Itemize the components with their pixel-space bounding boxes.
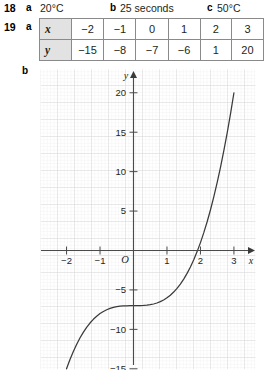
cubic-graph-svg: −2−1123 2015105−5−10−15 x y O <box>40 68 256 370</box>
answer-row-19: 19 a x −2 −1 0 1 2 3 y −15 −8 −7 −6 1 20 <box>0 18 264 62</box>
answer-19-part-b-letter: b <box>22 65 28 76</box>
x-tick-label: 2 <box>198 255 203 266</box>
table-cell: 1 <box>200 40 231 61</box>
answer-18-part-b-value: 25 seconds <box>120 2 174 14</box>
table-cell: −6 <box>168 40 200 61</box>
question-number-18: 18 <box>4 2 16 14</box>
x-axis-label: x <box>248 255 254 266</box>
y-tick-label: 15 <box>115 127 126 138</box>
table-cell: −2 <box>71 19 104 40</box>
table-cell: 1 <box>168 19 200 40</box>
y-tick-label: 5 <box>121 205 126 216</box>
x-tick-label: 1 <box>164 255 169 266</box>
table-row-header-x: x <box>40 19 72 40</box>
table-cell: 20 <box>231 40 263 61</box>
table-row-header-y: y <box>40 40 72 61</box>
table-row: x −2 −1 0 1 2 3 <box>40 19 264 40</box>
x-tick-label: −1 <box>95 255 106 266</box>
value-table: x −2 −1 0 1 2 3 y −15 −8 −7 −6 1 20 <box>39 18 264 61</box>
answer-19-part-a-letter: a <box>26 21 32 32</box>
answer-18-part-c-value: 50°C <box>217 2 240 14</box>
table-cell: 3 <box>231 19 263 40</box>
table-row: y −15 −8 −7 −6 1 20 <box>40 40 264 61</box>
y-tick-label: 20 <box>115 87 126 98</box>
cubic-graph-figure: −2−1123 2015105−5−10−15 x y O <box>40 68 256 370</box>
x-tick-label: −2 <box>61 255 72 266</box>
answer-19-part-b-graph-block: b <box>0 62 264 375</box>
answer-18-part-c-letter: c <box>207 2 213 13</box>
table-cell: −15 <box>71 40 104 61</box>
table-cell: −1 <box>104 19 136 40</box>
origin-label: O <box>121 254 129 265</box>
table-cell: −7 <box>136 40 168 61</box>
y-tick-label: −5 <box>115 284 126 295</box>
answer-row-18: 18 a 20°C b 25 seconds c 50°C <box>0 0 264 18</box>
y-tick-label: 10 <box>115 166 126 177</box>
y-axis-label: y <box>123 70 129 81</box>
y-tick-label: −10 <box>110 324 126 335</box>
x-tick-label: 3 <box>231 255 236 266</box>
y-tick-label: −15 <box>110 363 126 370</box>
answer-18-part-a-letter: a <box>26 2 32 13</box>
answer-18-part-b-letter: b <box>110 2 116 13</box>
graph-gridlines <box>41 69 256 369</box>
table-cell: 2 <box>200 19 231 40</box>
question-number-19: 19 <box>4 21 16 33</box>
answer-18-part-a-value: 20°C <box>40 2 63 14</box>
table-cell: 0 <box>136 19 168 40</box>
table-cell: −8 <box>104 40 136 61</box>
